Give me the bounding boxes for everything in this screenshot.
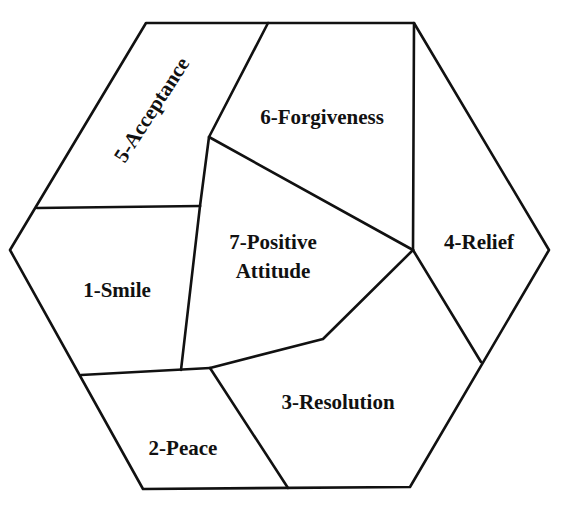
label-4-relief: 4-Relief bbox=[444, 232, 514, 253]
label-7-positive-attitude: 7-Positive Attitude bbox=[229, 228, 316, 286]
divider-6-4 bbox=[413, 23, 414, 250]
label-6-forgiveness: 6-Forgiveness bbox=[260, 107, 384, 128]
label-1-smile: 1-Smile bbox=[83, 280, 151, 301]
label-3-resolution: 3-Resolution bbox=[281, 392, 394, 413]
label-7-line1: 7-Positive bbox=[229, 228, 316, 257]
label-2-peace: 2-Peace bbox=[149, 438, 218, 459]
hexagon-diagram: 5-Acceptance 6-Forgiveness 7-Positive At… bbox=[0, 0, 563, 505]
label-7-line2: Attitude bbox=[229, 257, 316, 286]
